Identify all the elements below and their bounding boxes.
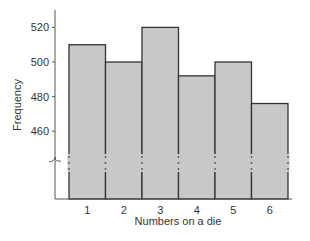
y-tick-label: 480 bbox=[31, 91, 49, 103]
histogram-chart: 460480500520 123456 Numbers on a die Fre… bbox=[0, 0, 310, 241]
x-tick-label: 2 bbox=[121, 204, 127, 216]
bar-6 bbox=[252, 104, 289, 199]
bar-4 bbox=[179, 76, 216, 199]
y-ticks: 460480500520 bbox=[31, 21, 55, 137]
x-axis-label: Numbers on a die bbox=[135, 215, 222, 227]
x-tick-label: 1 bbox=[84, 204, 90, 216]
bar-2 bbox=[106, 62, 143, 199]
y-tick-label: 500 bbox=[31, 56, 49, 68]
x-tick-label: 5 bbox=[230, 204, 236, 216]
x-tick-label: 6 bbox=[267, 204, 273, 216]
y-axis-label: Frequency bbox=[11, 79, 23, 131]
y-tick-label: 460 bbox=[31, 125, 49, 137]
bars-group bbox=[69, 27, 288, 199]
bar-5 bbox=[215, 62, 252, 199]
bar-3 bbox=[142, 27, 179, 199]
y-tick-label: 520 bbox=[31, 21, 49, 33]
bar-1 bbox=[69, 45, 106, 199]
